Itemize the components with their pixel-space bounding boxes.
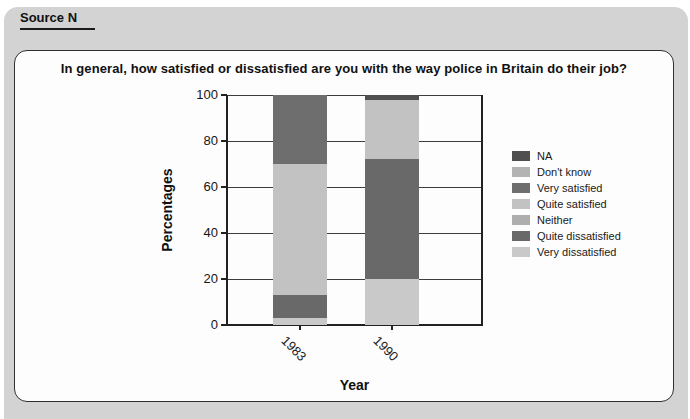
- bar-segment-quite-dissatisfied: [273, 295, 327, 318]
- legend-item: Don't know: [512, 167, 621, 177]
- gridline: [227, 233, 482, 234]
- legend-swatch-icon: [512, 183, 530, 193]
- bar-segment-very-dissatisfied: [365, 279, 419, 325]
- x-axis-title: Year: [227, 377, 482, 393]
- legend-swatch-icon: [512, 215, 530, 225]
- legend-label: Quite dissatisfied: [537, 230, 621, 242]
- legend-label: Very dissatisfied: [537, 246, 616, 258]
- legend-label: Don't know: [537, 166, 591, 178]
- y-axis-line: [226, 95, 228, 325]
- legend-item: Neither: [512, 215, 621, 225]
- bar-segment-very-satisfied: [273, 95, 327, 164]
- bar-segment-quite-satisfied: [273, 164, 327, 295]
- legend-swatch-icon: [512, 247, 530, 257]
- legend-item: NA: [512, 151, 621, 161]
- legend-label: NA: [537, 150, 552, 162]
- bar-segment-very-dissatisfied: [273, 318, 327, 325]
- y-tick-label: 80: [178, 133, 218, 148]
- legend-item: Quite dissatisfied: [512, 231, 621, 241]
- legend-item: Very satisfied: [512, 183, 621, 193]
- question-title: In general, how satisfied or dissatisfie…: [14, 61, 674, 76]
- x-tick: [391, 325, 393, 330]
- y-axis-title: Percentages: [159, 164, 175, 256]
- source-label: Source N: [20, 10, 95, 30]
- legend-label: Quite satisfied: [537, 198, 607, 210]
- x-tick: [299, 325, 301, 330]
- bar-1990: [365, 95, 419, 325]
- y-tick-label: 0: [178, 317, 218, 332]
- legend-swatch-icon: [512, 199, 530, 209]
- bar-segment-quite-dissatisfied: [365, 159, 419, 279]
- bar-1983: [273, 95, 327, 325]
- gridline: [227, 95, 482, 96]
- y-tick-label: 60: [178, 179, 218, 194]
- legend-swatch-icon: [512, 151, 530, 161]
- legend-swatch-icon: [512, 167, 530, 177]
- plot-right-border: [481, 95, 483, 325]
- y-tick-label: 100: [178, 87, 218, 102]
- y-tick-label: 20: [178, 271, 218, 286]
- bar-segment-quite-satisfied: [365, 100, 419, 160]
- legend-label: Neither: [537, 214, 572, 226]
- bar-segment-na: [365, 95, 419, 100]
- x-axis-line: [227, 324, 483, 326]
- gridline: [227, 187, 482, 188]
- y-tick-label: 40: [178, 225, 218, 240]
- legend-item: Very dissatisfied: [512, 247, 621, 257]
- legend-swatch-icon: [512, 231, 530, 241]
- legend-label: Very satisfied: [537, 182, 602, 194]
- chart-legend: NADon't knowVery satisfiedQuite satisfie…: [512, 151, 621, 263]
- gridline: [227, 279, 482, 280]
- legend-item: Quite satisfied: [512, 199, 621, 209]
- gridline: [227, 141, 482, 142]
